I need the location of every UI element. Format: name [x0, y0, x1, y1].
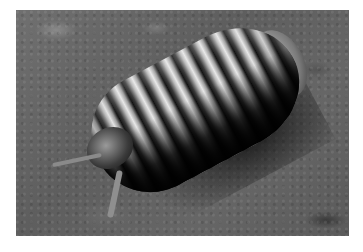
photo — [16, 10, 349, 236]
